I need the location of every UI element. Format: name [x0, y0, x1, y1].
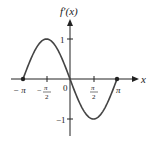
endpoint-right — [115, 77, 119, 81]
x-tick-neg-pi: − π — [13, 85, 26, 95]
svg-text:2: 2 — [45, 93, 49, 101]
endpoint-left — [21, 77, 25, 81]
svg-text:−: − — [37, 86, 42, 95]
x-tick-neg-half-pi: − π 2 — [37, 84, 51, 101]
x-tick-half-pi: π 2 — [90, 84, 98, 101]
y-axis-arrow-icon — [67, 19, 73, 26]
y-tick-neg-1: −1 — [56, 115, 66, 125]
svg-text:π: π — [44, 84, 48, 92]
x-axis-arrow-icon — [132, 76, 139, 82]
y-axis-label: f′(x) — [60, 5, 78, 18]
svg-text:2: 2 — [92, 93, 96, 101]
origin-label: 0 — [63, 83, 68, 93]
y-tick-1: 1 — [60, 35, 65, 45]
x-tick-pi: π — [116, 85, 121, 95]
x-axis-label: x — [140, 73, 146, 85]
chart: f′(x) x 1 −1 0 − π π − π 2 π 2 — [0, 0, 154, 147]
svg-text:π: π — [91, 84, 95, 92]
